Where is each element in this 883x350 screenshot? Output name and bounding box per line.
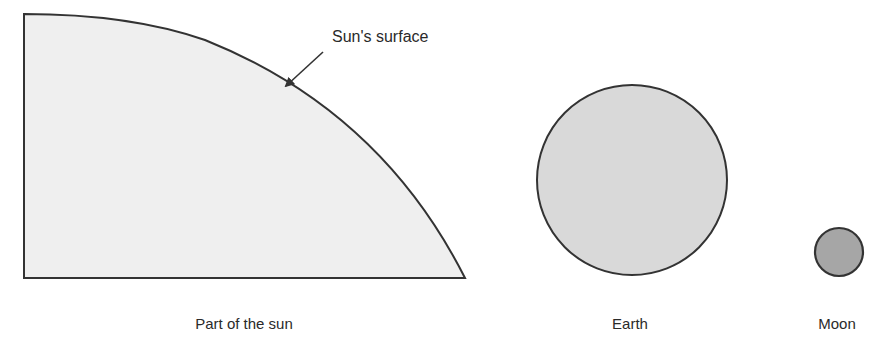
moon-circle [815, 228, 863, 276]
sun-segment [24, 14, 465, 278]
sun-surface-callout: Sun's surface [332, 28, 428, 46]
earth-circle [537, 85, 727, 275]
sun-surface-arrow [286, 52, 323, 86]
size-comparison-diagram [0, 0, 883, 350]
sun-label: Part of the sun [195, 315, 293, 332]
moon-label: Moon [818, 315, 856, 332]
earth-label: Earth [612, 315, 648, 332]
